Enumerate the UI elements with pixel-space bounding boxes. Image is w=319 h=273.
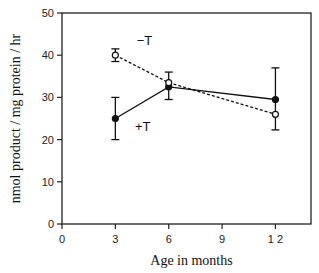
y-tick-label: 0 <box>48 218 54 230</box>
y-tick-label: 10 <box>42 176 54 188</box>
series-line-minus-t <box>115 55 275 114</box>
data-point-plus-t <box>272 97 278 103</box>
y-tick-label: 50 <box>42 7 54 19</box>
x-tick-label: 3 <box>112 233 118 245</box>
chart: 0102030405003691 2 −T+T Age in months nm… <box>0 0 319 273</box>
series-label: +T <box>135 119 151 134</box>
axes: 0102030405003691 2 <box>42 7 311 245</box>
x-axis-title: Age in months <box>150 253 232 268</box>
plot-frame <box>62 13 311 224</box>
x-tick-label: 6 <box>166 233 172 245</box>
y-tick-label: 20 <box>42 134 54 146</box>
data-point-plus-t <box>112 116 118 122</box>
series-label: −T <box>137 33 153 48</box>
data-point-minus-t <box>272 111 278 117</box>
x-tick-label: 1 2 <box>268 233 283 245</box>
x-tick-label: 9 <box>219 233 225 245</box>
y-axis-title: nmol product / mg protein / hr <box>8 33 23 203</box>
y-tick-label: 30 <box>42 91 54 103</box>
marks: −T+T <box>111 33 279 140</box>
y-tick-label: 40 <box>42 49 54 61</box>
x-tick-label: 0 <box>59 233 65 245</box>
data-point-minus-t <box>166 80 172 86</box>
data-point-minus-t <box>112 52 118 58</box>
series-line-plus-t <box>115 87 275 119</box>
